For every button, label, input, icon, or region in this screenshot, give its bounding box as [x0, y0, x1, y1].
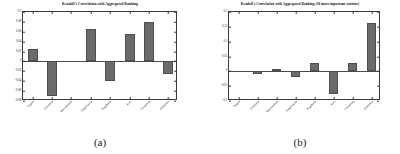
- x-axis-category-label: PageRank: [102, 100, 113, 111]
- x-axis-tick-mark: [129, 97, 130, 99]
- y-axis-tick-mark: [174, 41, 176, 42]
- y-axis-tick-label: 0.04: [16, 40, 23, 43]
- x-axis-tick-mark: [352, 12, 353, 14]
- zero-line-a: [23, 61, 176, 62]
- y-axis-tick-mark: [229, 41, 231, 42]
- y-axis-tick-mark: [174, 101, 176, 102]
- x-axis-category-label: Clustering: [140, 100, 151, 111]
- y-axis-tick-mark: [377, 71, 379, 72]
- zero-line-b: [229, 71, 379, 72]
- y-axis-tick-mark: [229, 71, 231, 72]
- bar: [47, 61, 57, 96]
- y-axis-tick-mark: [23, 31, 25, 32]
- x-axis-tick-mark: [238, 12, 239, 14]
- x-axis-tick-mark: [371, 12, 372, 14]
- y-axis-tick-mark: [229, 101, 231, 102]
- y-axis-tick-label: 0.08: [16, 20, 23, 23]
- x-axis-category-label: Eigenvector: [81, 100, 93, 112]
- x-axis-tick-mark: [52, 97, 53, 99]
- bar: [291, 71, 301, 77]
- x-axis-tick-mark: [168, 97, 169, 99]
- plot-area-b: DegreeClosenessBetweennessEigenvectorPag…: [228, 11, 380, 100]
- x-axis-category-label: Harmonic: [363, 100, 374, 111]
- bar: [105, 61, 115, 81]
- bar: [125, 34, 135, 61]
- x-axis-tick-mark: [257, 97, 258, 99]
- y-axis-tick-mark: [229, 12, 231, 13]
- y-axis-tick-mark: [377, 27, 379, 28]
- y-axis-tick-mark: [377, 86, 379, 87]
- bar: [310, 63, 320, 71]
- y-axis-tick-mark: [174, 31, 176, 32]
- y-axis-tick-mark: [229, 56, 231, 57]
- subfigure-a: Kendall's Correlation with Aggregated Ra…: [0, 0, 200, 154]
- y-axis-tick-mark: [377, 12, 379, 13]
- bars-layer-a: [23, 12, 176, 99]
- chart-title-b: Kendall's Correlation with Aggregated Ra…: [200, 2, 400, 6]
- y-axis-tick-mark: [174, 61, 176, 62]
- y-axis-tick-mark: [174, 12, 176, 13]
- y-axis-tick-mark: [174, 22, 176, 23]
- plot-area-a: DegreeClosenessBetweennessEigenvectorPag…: [22, 11, 177, 100]
- y-axis-tick-label: -0.04: [15, 80, 23, 83]
- x-axis-tick-mark: [52, 12, 53, 14]
- x-axis-tick-mark: [276, 97, 277, 99]
- x-axis-labels-a: DegreeClosenessBetweennessEigenvectorPag…: [23, 99, 176, 129]
- y-axis-tick-mark: [174, 91, 176, 92]
- x-axis-tick-mark: [238, 97, 239, 99]
- x-axis-category-label: Degree: [27, 100, 35, 108]
- x-axis-category-label: Clustering: [344, 100, 355, 111]
- y-axis-tick-label: -0.05: [221, 85, 229, 88]
- x-axis-tick-mark: [110, 12, 111, 14]
- y-axis-tick-label: 0.02: [16, 50, 23, 53]
- x-axis-tick-mark: [110, 97, 111, 99]
- x-axis-tick-mark: [352, 97, 353, 99]
- x-axis-category-label: PageRank: [306, 100, 317, 111]
- y-axis-tick-mark: [23, 61, 25, 62]
- x-axis-tick-mark: [32, 97, 33, 99]
- y-axis-tick-mark: [229, 86, 231, 87]
- y-axis-tick-mark: [23, 51, 25, 52]
- y-axis-tick-label: 0.06: [16, 30, 23, 33]
- x-axis-tick-mark: [71, 12, 72, 14]
- x-axis-tick-mark: [168, 12, 169, 14]
- bar: [28, 49, 38, 61]
- y-axis-tick-label: -0.06: [15, 90, 23, 93]
- x-axis-tick-mark: [257, 12, 258, 14]
- x-axis-labels-b: DegreeClosenessBetweennessEigenvectorPag…: [229, 99, 379, 129]
- x-axis-category-label: Degree: [232, 100, 240, 108]
- x-axis-category-label: Closeness: [44, 100, 55, 111]
- bars-layer-b: [229, 12, 379, 99]
- x-axis-tick-mark: [91, 97, 92, 99]
- y-axis-tick-mark: [377, 101, 379, 102]
- y-axis-tick-label: -0.02: [15, 70, 23, 73]
- x-axis-category-label: Betweenness: [60, 100, 73, 113]
- y-axis-tick-mark: [23, 22, 25, 23]
- y-axis-tick-mark: [23, 91, 25, 92]
- bar: [86, 29, 96, 61]
- y-axis-tick-mark: [229, 27, 231, 28]
- x-axis-tick-mark: [32, 12, 33, 14]
- bar: [144, 22, 154, 61]
- bar: [163, 61, 173, 73]
- y-axis-tick-mark: [377, 41, 379, 42]
- x-axis-category-label: Closeness: [249, 100, 260, 111]
- y-axis-tick-mark: [174, 71, 176, 72]
- y-axis-tick-mark: [23, 71, 25, 72]
- x-axis-tick-mark: [333, 12, 334, 14]
- bar: [348, 63, 358, 71]
- y-axis-tick-label: -0.08: [15, 99, 23, 102]
- x-axis-tick-mark: [314, 12, 315, 14]
- x-axis-tick-mark: [71, 97, 72, 99]
- y-axis-tick-mark: [174, 81, 176, 82]
- y-axis-tick-mark: [377, 56, 379, 57]
- x-axis-tick-mark: [149, 97, 150, 99]
- x-axis-tick-mark: [295, 12, 296, 14]
- y-axis-tick-label: 0.15: [222, 25, 229, 28]
- x-axis-category-label: Betweenness: [265, 100, 278, 113]
- x-axis-tick-mark: [129, 12, 130, 14]
- y-axis-tick-mark: [23, 41, 25, 42]
- subfigure-b: Kendall's Correlation with Aggregated Ra…: [200, 0, 400, 154]
- x-axis-category-label: Harmonic: [160, 100, 171, 111]
- x-axis-tick-mark: [91, 12, 92, 14]
